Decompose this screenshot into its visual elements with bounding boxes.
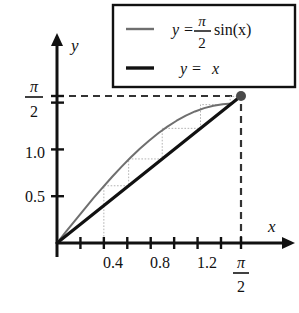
legend-sine-function: sin(x) [214, 21, 251, 39]
series-identity-line [57, 96, 241, 243]
legend-entry-identity: y = x [178, 60, 219, 78]
legend-identity-rhs: x [211, 60, 219, 77]
cobweb-staircase-group [104, 96, 241, 243]
x-tick-label-0: 0.4 [103, 254, 123, 271]
cobweb-fixed-point-chart: y x 0.4 0.8 1.2 π 2 0.5 1.0 π 2 y = π [0, 0, 299, 313]
y-axis-arrowhead [51, 33, 63, 46]
y-axis-label: y [69, 36, 79, 55]
fixed-point-marker-group [236, 91, 246, 101]
legend-sine-equals: = [184, 21, 193, 38]
legend-identity-equals: = [192, 60, 201, 77]
series-group [57, 96, 241, 243]
fixed-point-iteration-staircase [104, 96, 241, 243]
legend-sine-numerator: π [198, 13, 206, 29]
y-tick-label-1: 1.0 [25, 144, 45, 161]
x-tick-label-2: 1.2 [197, 254, 217, 271]
legend-identity-lhs: y [178, 60, 188, 78]
x-tick-label-1: 0.8 [150, 254, 170, 271]
legend: y = π 2 sin(x) y = x [113, 5, 295, 87]
x-axis-arrowhead [282, 237, 295, 249]
legend-sine-denominator: 2 [198, 35, 206, 51]
x-axis-label: x [267, 217, 276, 236]
figure-container: y x 0.4 0.8 1.2 π 2 0.5 1.0 π 2 y = π [0, 0, 299, 313]
x-pi-denominator: 2 [237, 278, 245, 295]
x-pi-numerator: π [237, 254, 246, 271]
y-pi-denominator: 2 [30, 103, 38, 120]
y-pi-numerator: π [30, 78, 39, 95]
x-tick-label-pi-over-2: π 2 [233, 254, 249, 295]
legend-sine-lhs: y [170, 21, 180, 39]
fixed-point-marker [236, 91, 246, 101]
y-tick-label-pi-over-2: π 2 [25, 78, 43, 120]
y-tick-label-0: 0.5 [25, 188, 45, 205]
